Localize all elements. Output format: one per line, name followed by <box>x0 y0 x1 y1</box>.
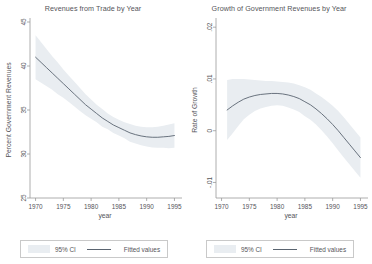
x-tick-label: 1970 <box>28 203 43 210</box>
legend-ci-label-right: 95% CI <box>241 246 262 253</box>
x-tick-label: 1970 <box>214 203 229 210</box>
legend-ci-label-left: 95% CI <box>55 246 76 253</box>
y-tick-label: 45 <box>20 18 27 26</box>
y-tick-label: 0 <box>206 128 213 132</box>
chart-content: 2530354045197019751980198519901995yearPe… <box>5 18 182 220</box>
x-tick-label: 1990 <box>140 203 155 210</box>
plot-area-left: 2530354045197019751980198519901995yearPe… <box>0 0 186 264</box>
y-axis-title: Percent Government Revenues <box>5 62 12 158</box>
y-tick-label: 25 <box>20 194 27 202</box>
ci-band <box>36 35 175 148</box>
x-tick-label: 1980 <box>270 203 285 210</box>
y-tick-label: 30 <box>20 150 27 158</box>
legend-left: 95% CI Fitted values <box>20 240 168 258</box>
ci-band <box>227 79 360 178</box>
legend-ci-swatch-right <box>214 245 236 253</box>
x-tick-label: 1980 <box>84 203 99 210</box>
chart-content: -.010.01.02197019751980198519901995yearR… <box>191 18 368 220</box>
x-tick-label: 1985 <box>112 203 127 210</box>
y-tick-label: .02 <box>206 22 213 31</box>
x-tick-label: 1995 <box>353 203 368 210</box>
y-tick-label: 35 <box>20 106 27 114</box>
x-tick-label: 1990 <box>326 203 341 210</box>
legend-ci-swatch-left <box>28 245 50 253</box>
x-tick-label: 1995 <box>167 203 182 210</box>
x-tick-label: 1975 <box>242 203 257 210</box>
panel-growth-of-revenues: Growth of Government Revenues by Year -.… <box>186 0 372 264</box>
x-tick-label: 1975 <box>56 203 71 210</box>
legend-fit-label-right: Fitted values <box>310 246 346 253</box>
y-tick-label: -.01 <box>206 177 213 188</box>
legend-fit-line-left <box>87 249 111 250</box>
two-panel-figure: Revenues from Trade by Year 253035404519… <box>0 0 372 264</box>
panel-revenues-from-trade: Revenues from Trade by Year 253035404519… <box>0 0 186 264</box>
y-tick-label: 40 <box>20 62 27 70</box>
x-axis-title: year <box>98 212 112 220</box>
y-axis-title: Rate of Growth <box>191 87 198 133</box>
x-tick-label: 1985 <box>298 203 313 210</box>
legend-fit-label-left: Fitted values <box>124 246 160 253</box>
x-axis-title: year <box>284 212 298 220</box>
legend-right: 95% CI Fitted values <box>206 240 354 258</box>
plot-area-right: -.010.01.02197019751980198519901995yearR… <box>186 0 372 264</box>
y-tick-label: .01 <box>206 74 213 83</box>
legend-fit-line-right <box>273 249 297 250</box>
